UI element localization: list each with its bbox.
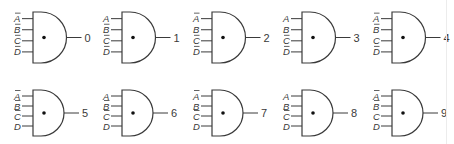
gate-body — [122, 90, 153, 136]
and-dot-icon — [221, 111, 225, 115]
input-label-d: D — [373, 121, 380, 132]
output-label: 2 — [264, 32, 270, 44]
and-dot-icon — [131, 111, 135, 115]
page-edge-divider — [446, 0, 447, 144]
input-label-d: D — [103, 121, 110, 132]
and-gate-7: 7ABCD — [192, 90, 267, 136]
and-dot-icon — [401, 36, 405, 40]
and-dot-icon — [42, 111, 46, 115]
output-label: 3 — [354, 32, 360, 44]
and-dot-icon — [131, 36, 135, 40]
output-label: 1 — [174, 32, 180, 44]
and-dot-icon — [401, 111, 405, 115]
input-label-c: C — [373, 35, 380, 46]
and-gate-2: 2ABCD — [192, 12, 270, 63]
input-label-d: D — [193, 121, 200, 132]
and-gate-3: 3ABCD — [282, 12, 360, 63]
input-label-b: B — [193, 24, 200, 35]
input-label-b: B — [283, 24, 290, 35]
input-label-b: B — [373, 24, 380, 35]
decoder-diagram: 0ABCD1ABCD2ABCD3ABCD4ABCD5ABCD6ABCD7ABCD… — [0, 0, 454, 144]
and-dot-icon — [221, 36, 225, 40]
input-label-a: A — [192, 13, 199, 24]
input-label-d: D — [193, 46, 200, 57]
input-label-a: A — [102, 13, 109, 24]
and-gate-4: 4ABCD — [372, 12, 450, 63]
gate-body — [33, 12, 67, 63]
gate-body — [302, 12, 336, 63]
input-label-c: C — [14, 35, 21, 46]
gates-canvas: 0ABCD1ABCD2ABCD3ABCD4ABCD5ABCD6ABCD7ABCD… — [0, 0, 454, 144]
input-label-c: C — [283, 35, 290, 46]
and-dot-icon — [311, 36, 315, 40]
and-gate-0: 0ABCD — [13, 12, 91, 63]
gate-body — [212, 90, 243, 136]
gate-body — [122, 12, 156, 63]
and-dot-icon — [42, 36, 46, 40]
gate-body — [302, 90, 333, 136]
and-gate-9: 9ABCD — [372, 90, 447, 136]
gate-body — [33, 90, 64, 136]
gate-body — [392, 90, 423, 136]
input-label-b: B — [14, 24, 21, 35]
input-label-b: B — [103, 24, 110, 35]
input-label-c: C — [103, 35, 110, 46]
input-label-a: A — [372, 13, 379, 24]
input-label-a: A — [13, 13, 20, 24]
output-label: 6 — [171, 107, 177, 119]
input-label-a: A — [282, 13, 289, 24]
and-gate-6: 6ABCD — [102, 90, 177, 136]
and-gate-1: 1ABCD — [102, 12, 180, 63]
and-gate-5: 5ABCD — [13, 90, 88, 136]
input-label-d: D — [14, 121, 21, 132]
output-label: 0 — [85, 32, 91, 44]
output-label: 7 — [261, 107, 267, 119]
and-dot-icon — [311, 111, 315, 115]
output-label: 5 — [82, 107, 88, 119]
input-label-d: D — [373, 46, 380, 57]
gate-body — [392, 12, 426, 63]
input-label-d: D — [14, 46, 21, 57]
input-label-d: D — [283, 46, 290, 57]
and-gate-8: 8ABCD — [282, 90, 357, 136]
gate-body — [212, 12, 246, 63]
input-label-d: D — [103, 46, 110, 57]
output-label: 8 — [351, 107, 357, 119]
input-label-c: C — [193, 35, 200, 46]
input-label-d: D — [283, 121, 290, 132]
